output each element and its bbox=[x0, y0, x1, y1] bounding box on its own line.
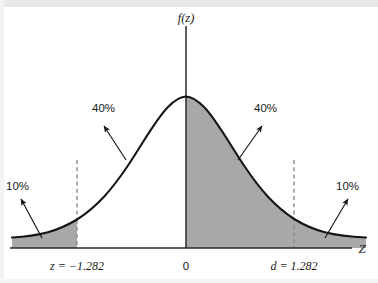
tick-label-left-critical: z = −1.282 bbox=[49, 259, 104, 273]
label-right-middle-percent: 40% bbox=[254, 102, 277, 114]
tick-label-right-critical: d = 1.282 bbox=[270, 259, 317, 273]
y-axis-label-fz: f(z) bbox=[178, 11, 195, 25]
x-axis-label-z: Z bbox=[358, 241, 366, 256]
label-right-tail-percent: 10% bbox=[336, 180, 359, 192]
label-left-middle-percent: 40% bbox=[92, 102, 115, 114]
distribution-plot: 10% 40% 40% 10% f(z) Z z = −1.282 0 d = … bbox=[0, 0, 378, 283]
arrow-left-tail bbox=[21, 199, 42, 238]
label-left-tail-percent: 10% bbox=[6, 180, 29, 192]
normal-distribution-figure: 10% 40% 40% 10% f(z) Z z = −1.282 0 d = … bbox=[0, 0, 378, 283]
tick-label-center-zero: 0 bbox=[183, 260, 189, 272]
arrow-left-middle bbox=[104, 126, 126, 160]
arrow-right-middle bbox=[238, 126, 262, 160]
arrow-right-tail bbox=[325, 199, 348, 238]
